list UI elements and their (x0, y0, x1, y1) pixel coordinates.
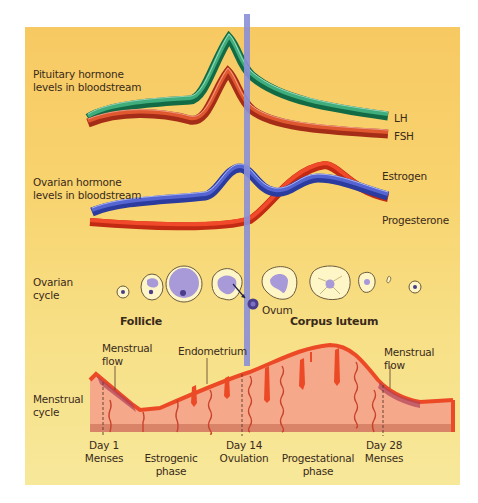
timeline-estrogenic: Estrogenic (144, 452, 197, 464)
follicle-label: Follicle (120, 316, 162, 328)
endometrium-label: Endometrium (178, 345, 247, 357)
ovarian-cycle-label-line2: cycle (33, 289, 59, 301)
timeline-day14: Day 14 (226, 439, 262, 451)
menstrual-flow-right-line1: Menstrual (384, 346, 434, 358)
ovarian-hormone-label-line1: Ovarian hormone (33, 176, 122, 188)
timeline-ovulation: Ovulation (220, 452, 269, 464)
progesterone-legend: Progesterone (382, 214, 449, 226)
fsh-legend: FSH (394, 130, 414, 142)
menstrual-flow-left-line1: Menstrual (102, 342, 152, 354)
menstrual-flow-right-line2: flow (384, 359, 405, 371)
menstrual-flow-left-line2: flow (102, 355, 123, 367)
timeline-progestational: Progestational (282, 452, 354, 464)
timeline-day28: Day 28 (366, 439, 402, 451)
timeline-progestational-phase: phase (303, 465, 334, 477)
ovum-label: Ovum (262, 304, 293, 316)
follicle-stages (117, 266, 259, 310)
corpus-luteum-label: Corpus luteum (290, 316, 378, 328)
menstrual-cycle-label-line1: Menstrual (33, 393, 83, 405)
corpus-luteum-stages (262, 266, 421, 300)
lh-legend: LH (394, 112, 407, 124)
timeline-day1: Day 1 (89, 439, 119, 451)
timeline-estrogenic-phase: phase (156, 465, 187, 477)
pituitary-label-line2: levels in bloodstream (33, 81, 141, 93)
ovarian-hormone-label-line2: levels in bloodstream (33, 189, 141, 201)
ovulation-bar (244, 14, 250, 366)
ovarian-cycle-label-line1: Ovarian (33, 276, 73, 288)
pituitary-label-line1: Pituitary hormone (33, 68, 124, 80)
menstrual-cycle-label-line2: cycle (33, 406, 59, 418)
timeline-day28-menses: Menses (365, 452, 403, 464)
lh-curve (88, 34, 388, 118)
estrogen-legend: Estrogen (382, 170, 427, 182)
timeline-day1-menses: Menses (85, 452, 123, 464)
